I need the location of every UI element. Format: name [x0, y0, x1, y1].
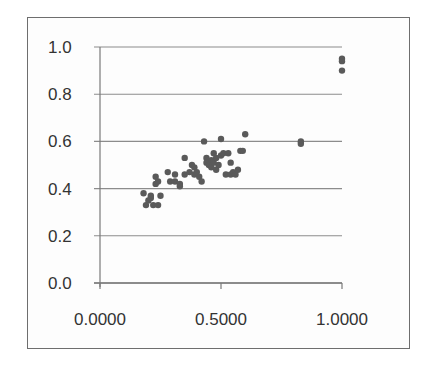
data-point [339, 67, 345, 73]
data-point [227, 159, 233, 165]
data-point [339, 58, 345, 64]
data-points [140, 56, 345, 209]
y-tick-label: 1.0 [48, 38, 72, 57]
data-point [165, 169, 171, 175]
y-tick-labels: 0.00.20.40.60.81.0 [48, 38, 72, 293]
data-point [218, 136, 224, 142]
data-point [201, 138, 207, 144]
data-point [225, 150, 231, 156]
data-point [177, 181, 183, 187]
x-tick-label: 1.0000 [316, 310, 368, 329]
data-point [215, 162, 221, 168]
x-tick-label: 0.5000 [195, 310, 247, 329]
y-tick-label: 0.6 [48, 132, 72, 151]
data-point [155, 178, 161, 184]
data-point [182, 155, 188, 161]
data-point [242, 131, 248, 137]
data-point [172, 171, 178, 177]
data-point [155, 202, 161, 208]
y-tick-label: 0.4 [48, 180, 72, 199]
y-tick-label: 0.8 [48, 85, 72, 104]
data-point [157, 192, 163, 198]
data-point [198, 178, 204, 184]
data-point [298, 141, 304, 147]
data-point [148, 192, 154, 198]
data-point [240, 148, 246, 154]
x-tick-label: 0.0000 [74, 310, 126, 329]
y-tick-label: 0.2 [48, 227, 72, 246]
data-point [140, 190, 146, 196]
data-point [235, 167, 241, 173]
y-tick-label: 0.0 [48, 274, 72, 293]
x-tick-labels: 0.00000.50001.0000 [74, 310, 368, 329]
scatter-chart: 0.00.20.40.60.81.0 0.00000.50001.0000 [0, 0, 433, 366]
